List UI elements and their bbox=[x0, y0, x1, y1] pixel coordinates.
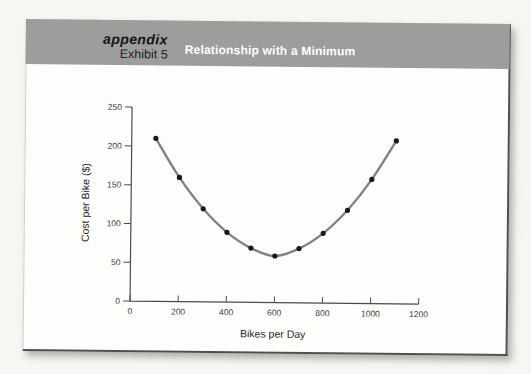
y-tick-label: 250 bbox=[108, 102, 123, 112]
exhibit-card: appendix Exhibit 5 Relationship with a M… bbox=[23, 19, 511, 356]
y-tick-label: 50 bbox=[111, 257, 121, 267]
y-axis-title: Cost per Bike ($) bbox=[79, 163, 92, 242]
x-tick-label: 800 bbox=[315, 308, 330, 318]
exhibit-title: Relationship with a Minimum bbox=[185, 43, 356, 68]
exhibit-label-block: appendix Exhibit 5 bbox=[26, 31, 168, 65]
axes bbox=[130, 107, 421, 304]
x-tick-label: 400 bbox=[219, 307, 234, 317]
x-tick-label: 600 bbox=[267, 308, 282, 318]
y-tick-label: 150 bbox=[107, 179, 122, 189]
data-point bbox=[272, 253, 277, 258]
chart-plot: 050100150200250020040060080010001200 bbox=[24, 65, 509, 354]
x-axis-title: Bikes per Day bbox=[240, 327, 305, 340]
x-tick-label: 200 bbox=[171, 307, 186, 317]
x-tick-label: 1000 bbox=[361, 309, 380, 319]
exhibit-number: Exhibit 5 bbox=[26, 46, 168, 61]
exhibit-header: appendix Exhibit 5 Relationship with a M… bbox=[26, 19, 510, 69]
y-tick-label: 200 bbox=[107, 141, 122, 151]
appendix-tag: appendix bbox=[26, 31, 168, 48]
y-tick-label: 100 bbox=[107, 218, 122, 228]
x-tick-label: 1200 bbox=[409, 309, 428, 319]
x-tick-label: 0 bbox=[128, 306, 133, 316]
cost-curve bbox=[155, 138, 397, 257]
y-tick-label: 0 bbox=[115, 296, 120, 306]
